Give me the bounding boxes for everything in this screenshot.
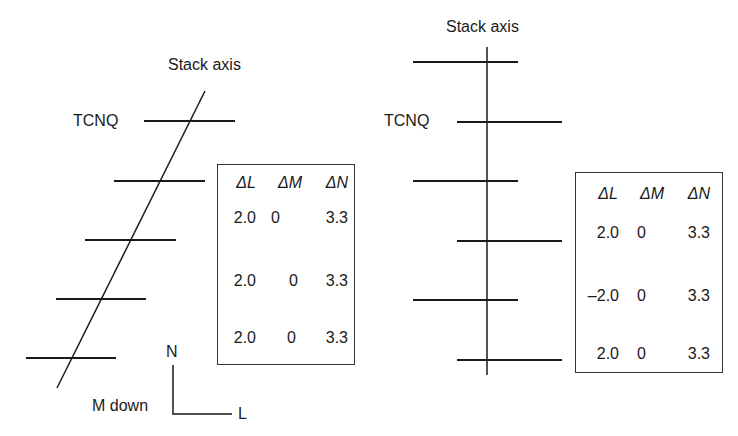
left-row1-dm: 0 <box>271 210 280 226</box>
left-table-grid: ΔL ΔM ΔN 2.0 0 3.3 2.0 0 3.3 2.0 0 3.3 <box>218 165 354 364</box>
left-row3-dn: 3.3 <box>326 330 348 346</box>
axis-m-down-label: M down <box>92 398 148 414</box>
left-row3-dl: 2.0 <box>234 330 256 346</box>
left-row2-dn: 3.3 <box>326 273 348 289</box>
left-molecule-planes <box>26 121 235 358</box>
right-row3-dm: 0 <box>637 346 646 362</box>
right-stack-axis-label: Stack axis <box>446 19 519 35</box>
left-stack-axis-label: Stack axis <box>168 57 241 73</box>
left-row1-dl: 2.0 <box>234 210 256 226</box>
right-row2-dn: 3.3 <box>688 288 710 304</box>
right-row2-dm: 0 <box>637 288 646 304</box>
right-header-dl: ΔL <box>598 186 618 202</box>
coordinate-frame-axes <box>173 365 232 414</box>
right-row1-dl: 2.0 <box>597 225 619 241</box>
right-row2-dl: –2.0 <box>588 288 619 304</box>
left-row3-dm: 0 <box>287 330 296 346</box>
right-row1-dn: 3.3 <box>688 225 710 241</box>
left-row2-dm: 0 <box>289 273 298 289</box>
right-row1-dm: 0 <box>637 225 646 241</box>
right-displacement-table: ΔL ΔM ΔN 2.0 0 3.3 –2.0 0 3.3 2.0 0 3.3 <box>575 172 723 373</box>
left-row1-dn: 3.3 <box>326 210 348 226</box>
axis-n-label: N <box>166 344 178 360</box>
left-tcnq-label: TCNQ <box>73 113 118 129</box>
right-table-grid: ΔL ΔM ΔN 2.0 0 3.3 –2.0 0 3.3 2.0 0 3.3 <box>576 173 722 372</box>
left-header-dl: ΔL <box>236 175 256 191</box>
left-header-dn: ΔN <box>326 175 348 191</box>
left-header-dm: ΔM <box>278 175 302 191</box>
right-tcnq-label: TCNQ <box>384 113 429 129</box>
axis-l-label: L <box>238 406 247 422</box>
left-row2-dl: 2.0 <box>234 273 256 289</box>
right-header-dm: ΔM <box>640 186 664 202</box>
right-header-dn: ΔN <box>688 186 710 202</box>
right-row3-dn: 3.3 <box>688 346 710 362</box>
right-row3-dl: 2.0 <box>597 346 619 362</box>
left-displacement-table: ΔL ΔM ΔN 2.0 0 3.3 2.0 0 3.3 2.0 0 3.3 <box>217 164 355 365</box>
